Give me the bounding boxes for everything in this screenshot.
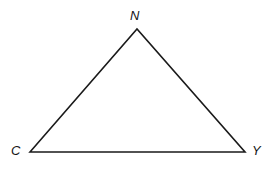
vertex-label-n: N [130,9,139,22]
vertex-label-c: C [11,144,20,157]
triangle-drawing [0,0,273,169]
vertex-label-y: Y [252,144,261,157]
triangle-cny-shape [30,29,245,152]
geometry-figure: N C Y [0,0,273,169]
